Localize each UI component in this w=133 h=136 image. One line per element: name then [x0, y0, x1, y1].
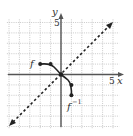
- f-point: [38, 62, 42, 66]
- f-inverse-point: [69, 93, 73, 97]
- f-inverse-superscript: −1: [72, 98, 82, 106]
- graph: y 5 5 x f f −1: [0, 0, 133, 136]
- x-tick-label: 5: [109, 76, 115, 86]
- f-point: [49, 62, 53, 66]
- x-axis-label: x: [117, 75, 123, 86]
- y-axis-label: y: [51, 6, 58, 17]
- y-tick-label: 5: [54, 18, 60, 28]
- f-label: f: [29, 58, 36, 69]
- f-inverse-point: [69, 83, 73, 87]
